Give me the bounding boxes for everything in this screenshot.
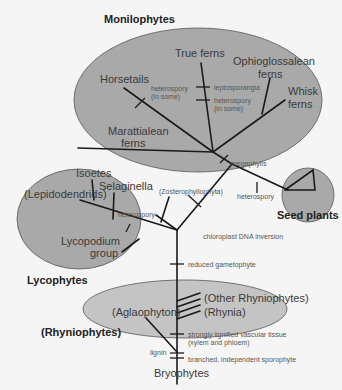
taxon-lycopodium-2: group [90, 247, 118, 259]
char-reduced-gametophyte: reduced gametophyte [188, 261, 256, 269]
taxon-bryophytes: Bryophytes [154, 367, 210, 379]
taxon-horsetails: Horsetails [100, 73, 149, 85]
char-heterospory-lyco: heterospory [118, 211, 155, 219]
taxon-whisk: Whisk [288, 85, 318, 97]
taxon-isoetes: Isoetes [76, 167, 112, 179]
taxon-ophioglossalean: Ophioglossalean [233, 55, 315, 67]
taxon-ophioglossalean-2: ferns [258, 68, 283, 80]
taxon-zosterophyllophyta: (Zosterophyllophyta) [159, 188, 223, 196]
phylogeny-diagram: Monilophytes Lycophytes (Rhyniophytes) S… [0, 0, 342, 390]
char-sporophyte: branched, independent sporophyte [188, 356, 296, 364]
group-monilophytes: Monilophytes [104, 13, 175, 25]
char-megaphylls: megaphylls [231, 160, 267, 168]
char-lignin: lignin [150, 349, 166, 357]
group-lycophytes: Lycophytes [27, 274, 88, 286]
char-heterospory-horsetails-2: (in some) [151, 93, 180, 101]
group-seed-plants: Seed plants [277, 209, 339, 221]
char-lignified: strongly lignified vascular tissue [188, 331, 287, 339]
taxon-lepidodendrids: (Lepidodendrids) [24, 188, 107, 200]
taxon-other-rhyniophytes: (Other Rhyniophytes) [204, 292, 309, 304]
taxon-whisk-2: ferns [288, 98, 313, 110]
taxon-lycopodium: Lycopodium [61, 235, 120, 247]
taxon-marattialean: Marattialean [108, 125, 169, 137]
char-chloroplast: chloroplast DNA inversion [203, 233, 283, 241]
char-heterospory-seed: heterospory [237, 193, 274, 201]
taxon-selaginella: Selaginella [99, 180, 154, 192]
taxon-rhynia: (Rhynia) [204, 306, 246, 318]
char-heterospory-ferns: heterospory [214, 97, 251, 105]
taxon-aglaophyton: (Aglaophyton) [112, 306, 181, 318]
taxon-marattialean-2: ferns [121, 137, 146, 149]
char-heterospory-horsetails: heterospory [151, 85, 188, 93]
taxon-true-ferns: True ferns [175, 47, 225, 59]
group-rhyniophytes: (Rhyniophytes) [41, 326, 121, 338]
char-lignified-2: (xylem and phloem) [188, 339, 249, 347]
char-heterospory-ferns-2: (in some) [214, 105, 243, 113]
char-leptosporangia: leptosporangia [214, 84, 260, 92]
